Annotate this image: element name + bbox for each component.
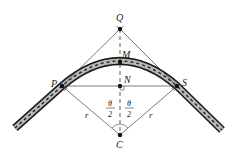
road-edge [15, 61, 222, 130]
label-p: P [50, 78, 57, 89]
angle-arc-right [120, 124, 128, 128]
label-r-left: r [85, 110, 89, 120]
point-s [175, 84, 179, 88]
angle-arc-left [112, 124, 120, 128]
label-s: S [182, 77, 187, 88]
theta-left: θ [108, 99, 112, 108]
label-q: Q [116, 12, 124, 23]
label-c: C [116, 139, 123, 150]
point-n [118, 84, 122, 88]
point-p [60, 84, 64, 88]
label-n: N [123, 74, 132, 85]
point-q [118, 27, 122, 31]
two-right: 2 [127, 110, 131, 119]
point-m [118, 60, 122, 64]
curve-diagram: Q M N P S C r r θ 2 θ 2 [0, 0, 236, 152]
point-c [118, 133, 122, 137]
label-m: M [121, 49, 131, 60]
label-r-right: r [149, 110, 153, 120]
two-left: 2 [108, 110, 112, 119]
theta-right: θ [127, 99, 131, 108]
